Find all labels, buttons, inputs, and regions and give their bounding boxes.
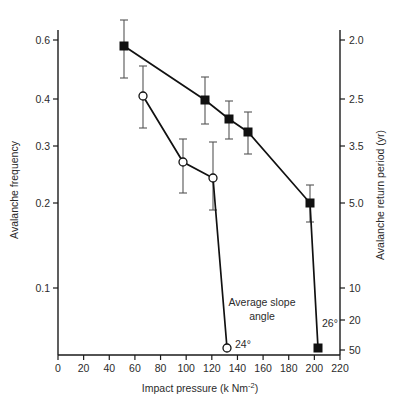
marker-open-circle — [223, 344, 231, 352]
x-tick-label: 80 — [155, 362, 167, 374]
y-axis-label-left: Avalanche frequency — [8, 140, 20, 239]
left-tick-label: 0.3 — [35, 140, 50, 152]
x-tick-label: 120 — [203, 362, 221, 374]
marker-filled-square — [225, 115, 233, 123]
right-tick-label: 5.0 — [349, 197, 364, 209]
chart-canvas: 0.60.40.30.20.1 2.02.53.55.0102050 02040… — [0, 0, 400, 405]
right-tick-label: 2.5 — [349, 93, 364, 105]
right-tick-label: 2.0 — [349, 34, 364, 46]
annotation-average-slope-angle-line1: Average slope — [229, 296, 296, 308]
annotation-series-label-26: 26° — [322, 317, 338, 329]
x-tick-label: 180 — [280, 362, 298, 374]
x-tick-label: 160 — [254, 362, 272, 374]
right-tick-label: 50 — [349, 344, 361, 356]
x-tick-label: 140 — [229, 362, 247, 374]
marker-filled-square — [201, 96, 209, 104]
annotation-series-label-24: 24° — [235, 338, 251, 350]
right-tick-label: 20 — [349, 314, 361, 326]
avalanche-frequency-chart: 0.60.40.30.20.1 2.02.53.55.0102050 02040… — [0, 0, 400, 405]
marker-filled-square — [314, 344, 322, 352]
x-tick-label: 60 — [129, 362, 141, 374]
left-tick-label: 0.1 — [35, 282, 50, 294]
marker-filled-square — [244, 128, 252, 136]
x-tick-label: 40 — [103, 362, 115, 374]
x-axis-label: Impact pressure (k Nm-2) — [142, 381, 258, 394]
x-tick-label: 100 — [177, 362, 195, 374]
left-tick-label: 0.6 — [35, 34, 50, 46]
x-tick-label: 20 — [78, 362, 90, 374]
marker-filled-square — [120, 42, 128, 50]
marker-open-circle — [179, 158, 187, 166]
marker-open-circle — [209, 174, 217, 182]
x-tick-label: 220 — [331, 362, 349, 374]
x-tick-label: 0 — [55, 362, 61, 374]
left-tick-label: 0.2 — [35, 197, 50, 209]
x-tick-label: 200 — [306, 362, 324, 374]
marker-filled-square — [306, 199, 314, 207]
y-axis-label-right: Avalanche return period (yr) — [374, 130, 386, 260]
right-tick-label: 3.5 — [349, 140, 364, 152]
marker-open-circle — [139, 92, 147, 100]
left-tick-label: 0.4 — [35, 93, 50, 105]
annotation-average-slope-angle-line2: angle — [249, 310, 275, 322]
right-tick-label: 10 — [349, 282, 361, 294]
